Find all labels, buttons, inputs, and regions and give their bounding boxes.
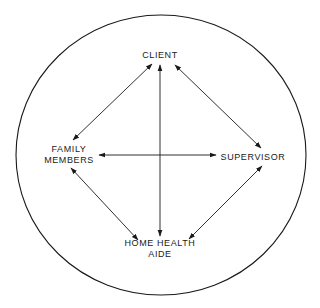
edge-client-family <box>73 64 152 140</box>
node-supervisor-line-1: SUPERVISOR <box>215 152 291 163</box>
node-client-line-1: CLIENT <box>120 50 200 61</box>
node-family-line-1: FAMILY <box>30 144 108 155</box>
node-home-health-aide: HOME HEALTH AIDE <box>115 238 205 260</box>
node-family-line-2: MEMBERS <box>30 155 108 166</box>
edge-client-supervisor <box>175 65 261 148</box>
node-family-members: FAMILY MEMBERS <box>30 144 108 166</box>
node-supervisor: SUPERVISOR <box>215 152 291 163</box>
node-aide-line-1: HOME HEALTH <box>115 238 205 249</box>
edge-family-aide <box>71 168 138 240</box>
edge-supervisor-aide <box>189 166 262 239</box>
node-client: CLIENT <box>120 50 200 61</box>
node-aide-line-2: AIDE <box>115 249 205 260</box>
